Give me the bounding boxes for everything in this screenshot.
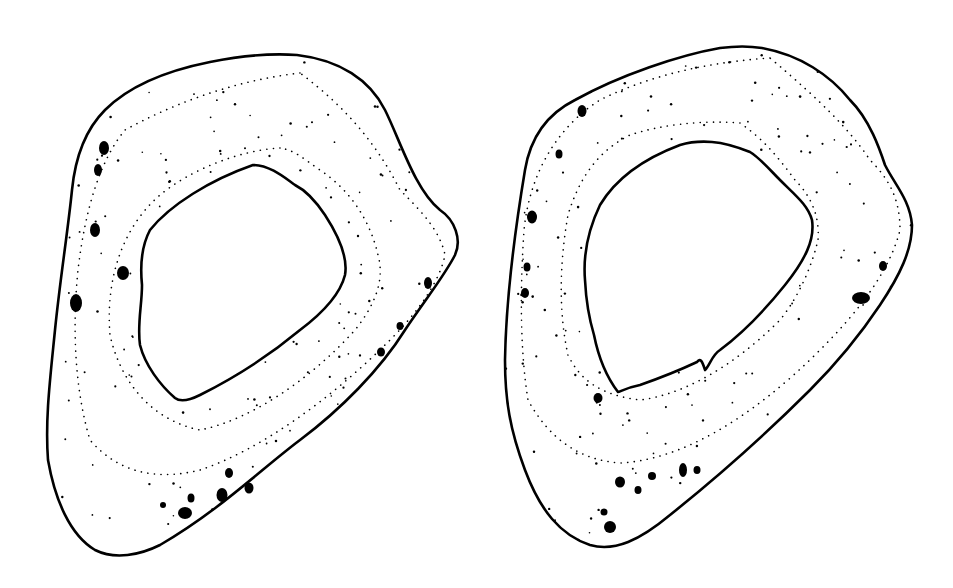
- stipple-dot: [816, 191, 818, 193]
- vascular-spot: [94, 164, 102, 176]
- stipple-dot: [84, 371, 86, 373]
- stipple-dot: [806, 135, 808, 137]
- stipple-dot: [374, 105, 377, 108]
- stipple-dot: [266, 443, 268, 445]
- vascular-spot: [594, 393, 603, 403]
- stipple-dot: [247, 398, 249, 400]
- stipple-dot: [562, 171, 564, 173]
- stipple-dot: [244, 147, 246, 149]
- stipple-dot: [65, 361, 67, 363]
- stipple-dot: [526, 274, 528, 276]
- stipple-dot: [586, 384, 588, 386]
- vascular-spot: [90, 223, 100, 237]
- stipple-dot: [360, 264, 362, 266]
- stipple-dot: [318, 340, 320, 342]
- stipple-dot: [733, 382, 735, 384]
- stipple-dot: [306, 126, 308, 128]
- stipple-dot: [772, 94, 774, 96]
- vascular-spot: [648, 472, 656, 480]
- vascular-spot: [245, 483, 254, 494]
- stipple-dot: [589, 532, 591, 534]
- stipple-dot: [357, 235, 359, 237]
- vascular-spot: [601, 509, 608, 516]
- stipple-dot: [521, 301, 523, 303]
- stipple-dot: [213, 130, 215, 132]
- stipple-dot: [193, 93, 195, 95]
- stipple-dot: [577, 206, 580, 209]
- stipple-dot: [621, 138, 623, 140]
- stipple-dot: [696, 445, 698, 447]
- vascular-spot: [178, 507, 192, 519]
- stipple-dot: [679, 482, 681, 484]
- stipple-dot: [635, 472, 637, 474]
- stipple-dot: [219, 150, 222, 153]
- stipple-dot: [579, 436, 581, 438]
- stipple-dot: [754, 82, 757, 85]
- stipple-dot: [303, 61, 305, 63]
- stipple-dot: [381, 287, 383, 289]
- stipple-dot: [829, 98, 831, 100]
- bone-cross-sections-drawing: [0, 0, 953, 588]
- stipple-dot: [123, 349, 125, 351]
- vascular-spot: [527, 211, 537, 224]
- stipple-dot: [311, 121, 313, 123]
- stipple-dot: [778, 135, 780, 137]
- stipple-dot: [101, 155, 103, 157]
- stipple-dot: [368, 300, 370, 302]
- vascular-spot: [377, 348, 385, 357]
- stipple-dot: [621, 91, 623, 93]
- stipple-dot: [398, 149, 400, 151]
- stipple-dot: [670, 476, 672, 478]
- stipple-dot: [77, 184, 80, 187]
- stipple-dot: [751, 373, 753, 375]
- vascular-spot: [852, 292, 870, 304]
- stipple-dot: [289, 122, 292, 125]
- vascular-spot: [604, 521, 616, 533]
- vascular-spot: [424, 277, 432, 289]
- stipple-dot: [355, 313, 357, 315]
- stipple-dot: [79, 231, 81, 233]
- stipple-dot: [209, 408, 211, 410]
- stipple-dot: [574, 374, 576, 376]
- vascular-spot: [879, 261, 887, 271]
- stipple-dot: [628, 419, 630, 421]
- stipple-dot: [61, 496, 63, 498]
- stipple-dot: [665, 443, 667, 445]
- stipple-dot: [275, 440, 278, 443]
- vascular-spot: [117, 266, 129, 280]
- stipple-dot: [327, 114, 329, 116]
- vascular-spot: [225, 468, 233, 478]
- stipple-dot: [222, 91, 224, 93]
- stipple-dot: [234, 103, 236, 105]
- stipple-dot: [843, 250, 845, 252]
- stipple-dot: [325, 187, 327, 189]
- stipple-dot: [100, 253, 102, 255]
- vascular-spot: [635, 486, 642, 494]
- stipple-dot: [599, 404, 601, 406]
- stipple-dot: [704, 380, 706, 382]
- stipple-dot: [595, 462, 597, 464]
- stipple-dot: [598, 371, 601, 374]
- vascular-spot: [99, 141, 109, 155]
- stipple-dot: [624, 82, 626, 84]
- stipple-dot: [68, 400, 70, 402]
- stipple-dot: [846, 146, 848, 148]
- vascular-spot: [521, 288, 529, 298]
- stipple-dot: [760, 148, 763, 151]
- stipple-dot: [620, 115, 622, 117]
- stipple-dot: [68, 292, 70, 294]
- stipple-dot: [840, 256, 842, 258]
- stipple-dot: [131, 335, 133, 337]
- stipple-dot: [850, 143, 852, 145]
- stipple-dot: [517, 293, 519, 295]
- stipple-dot: [632, 468, 634, 470]
- stipple-dot: [295, 343, 297, 345]
- stipple-dot: [685, 65, 687, 67]
- stipple-dot: [128, 374, 130, 376]
- stipple-dot: [537, 266, 539, 268]
- stipple-dot: [344, 377, 346, 379]
- stipple-dot: [687, 393, 689, 395]
- stipple-dot: [874, 251, 876, 253]
- stipple-dot: [590, 517, 592, 519]
- stipple-dot: [148, 483, 150, 485]
